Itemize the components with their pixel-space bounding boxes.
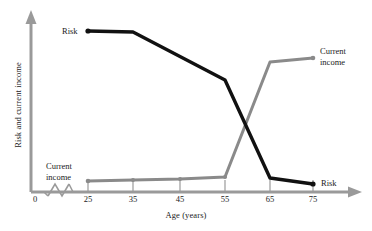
- x-axis-title: Age (years): [0, 210, 372, 220]
- risk-income-line-chart: Age (years) Risk and current income 0 25…: [0, 0, 372, 231]
- x-tick-label-35: 35: [121, 194, 145, 204]
- series-label-risk-left: Risk: [62, 26, 78, 36]
- axis-break-icon: [44, 184, 73, 196]
- x-tick-label-55: 55: [213, 194, 237, 204]
- series-label-income-left-line1: Current: [46, 161, 72, 172]
- x-tick-label-45: 45: [168, 194, 192, 204]
- y-axis-title: Risk and current income: [13, 25, 23, 185]
- series-label-income-left: Current income: [46, 161, 72, 182]
- x-tick-label-65: 65: [258, 194, 282, 204]
- x-tick-label-0: 0: [23, 194, 47, 204]
- x-tick-label-75: 75: [301, 194, 325, 204]
- x-axis-ticks: [88, 180, 313, 192]
- y-axis: [26, 10, 37, 192]
- series-label-income-right: Current income: [320, 46, 346, 67]
- x-tick-label-25: 25: [76, 194, 100, 204]
- series-risk: [85, 28, 315, 186]
- series-label-income-left-line2: income: [46, 172, 72, 183]
- series-current-income: [86, 56, 316, 184]
- series-label-risk-right: Risk: [321, 178, 337, 188]
- series-label-income-right-line1: Current: [320, 46, 346, 57]
- series-label-income-right-line2: income: [320, 57, 346, 68]
